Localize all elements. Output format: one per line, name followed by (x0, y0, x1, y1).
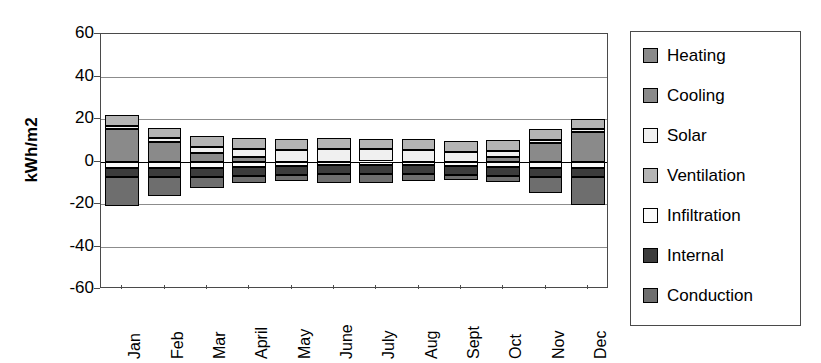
bar-segment[interactable] (444, 141, 478, 152)
bar-segment[interactable] (190, 168, 224, 178)
bar-segment[interactable] (148, 142, 182, 161)
bar-segment[interactable] (529, 177, 563, 193)
legend-swatch-icon (643, 248, 658, 263)
bar-segment[interactable] (529, 143, 563, 161)
bar-segment[interactable] (402, 150, 436, 162)
bar-segment[interactable] (275, 150, 309, 162)
legend-item[interactable]: Heating (643, 44, 726, 66)
bar-segment[interactable] (571, 168, 605, 178)
x-tick-mark (164, 285, 165, 289)
bar-segment[interactable] (486, 151, 520, 157)
x-axis-tick-labels: JanFebMarAprilMayJuneJulyAugSeptOctNovDe… (100, 289, 608, 363)
bar-segment[interactable] (317, 138, 351, 149)
legend-item[interactable]: Solar (643, 124, 707, 146)
x-tick-mark (587, 285, 588, 289)
x-tick-label: Mar (212, 331, 228, 359)
bar-group[interactable] (402, 34, 436, 287)
bar-segment[interactable] (148, 128, 182, 139)
x-tick-label: Dec (593, 331, 609, 359)
bar-segment[interactable] (105, 126, 139, 129)
bar-segment[interactable] (190, 153, 224, 162)
y-tick-label: 40 (46, 67, 94, 84)
bar-segment[interactable] (571, 119, 605, 130)
bar-segment[interactable] (571, 177, 605, 205)
x-tick-label: Sept (466, 326, 482, 359)
bar-segment[interactable] (529, 168, 563, 178)
legend-item[interactable]: Infiltration (643, 204, 741, 226)
bar-group[interactable] (317, 34, 351, 287)
bar-group[interactable] (275, 34, 309, 287)
bar-segment[interactable] (105, 129, 139, 162)
bar-segment[interactable] (359, 165, 393, 175)
bar-group[interactable] (529, 34, 563, 287)
bar-segment[interactable] (402, 165, 436, 175)
bar-segment[interactable] (529, 140, 563, 144)
bar-segment[interactable] (486, 176, 520, 181)
bar-segment[interactable] (190, 147, 224, 153)
bar-segment[interactable] (402, 139, 436, 150)
legend-item[interactable]: Conduction (643, 284, 753, 306)
legend-item[interactable]: Ventilation (643, 164, 745, 186)
legend-item[interactable]: Internal (643, 244, 724, 266)
bar-segment[interactable] (232, 167, 266, 177)
bar-segment[interactable] (486, 167, 520, 177)
x-tick-label: Aug (424, 331, 440, 359)
y-tick-label: -60 (46, 279, 94, 296)
legend-label: Solar (667, 127, 707, 144)
bar-segment[interactable] (148, 168, 182, 178)
bar-segment[interactable] (275, 139, 309, 150)
legend-item[interactable]: Cooling (643, 84, 725, 106)
bar-segment[interactable] (486, 140, 520, 151)
bar-segment[interactable] (529, 129, 563, 140)
x-tick-label: July (381, 331, 397, 359)
x-tick-label: Oct (508, 334, 524, 359)
legend-swatch-icon (643, 88, 658, 103)
bar-segment[interactable] (359, 174, 393, 183)
bar-segment[interactable] (105, 115, 139, 126)
x-tick-label: May (297, 329, 313, 359)
bar-segment[interactable] (275, 166, 309, 176)
y-tick-label: 0 (46, 152, 94, 169)
bar-segment[interactable] (571, 129, 605, 132)
bar-segment[interactable] (317, 174, 351, 183)
bar-segment[interactable] (105, 168, 139, 178)
bar-group[interactable] (190, 34, 224, 287)
bar-segment[interactable] (190, 136, 224, 147)
legend-swatch-icon (643, 288, 658, 303)
bar-group[interactable] (444, 34, 478, 287)
bar-segment[interactable] (232, 149, 266, 158)
legend-label: Internal (667, 247, 724, 264)
bar-segment[interactable] (444, 175, 478, 179)
bar-segment[interactable] (359, 139, 393, 150)
chart-container: kWh/m2 6040200-20-40-60 JanFebMarAprilMa… (0, 0, 821, 363)
bar-group[interactable] (571, 34, 605, 287)
bar-group[interactable] (148, 34, 182, 287)
bar-segment[interactable] (232, 138, 266, 149)
x-tick-label: June (339, 324, 355, 359)
bar-group[interactable] (232, 34, 266, 287)
bar-segment[interactable] (232, 176, 266, 182)
bar-segment[interactable] (148, 177, 182, 195)
bar-group[interactable] (105, 34, 139, 287)
bar-segment[interactable] (105, 177, 139, 206)
x-tick-mark (460, 285, 461, 289)
bar-segment[interactable] (190, 177, 224, 188)
bar-segment[interactable] (444, 166, 478, 176)
bar-group[interactable] (486, 34, 520, 287)
x-tick-label: Feb (170, 331, 186, 359)
bar-group[interactable] (359, 34, 393, 287)
bar-segment[interactable] (444, 152, 478, 162)
y-tick-label: -20 (46, 194, 94, 211)
x-tick-mark (121, 285, 122, 289)
bar-segment[interactable] (359, 149, 393, 161)
bar-segment[interactable] (317, 165, 351, 175)
y-tick-label: 20 (46, 109, 94, 126)
bar-segment[interactable] (148, 138, 182, 142)
chart-legend: HeatingCoolingSolarVentilationInfiltrati… (630, 31, 801, 326)
legend-swatch-icon (643, 168, 658, 183)
bar-segment[interactable] (317, 149, 351, 162)
bar-segment[interactable] (571, 132, 605, 162)
x-tick-mark (418, 285, 419, 289)
bar-segment[interactable] (402, 174, 436, 180)
bar-segment[interactable] (275, 175, 309, 180)
